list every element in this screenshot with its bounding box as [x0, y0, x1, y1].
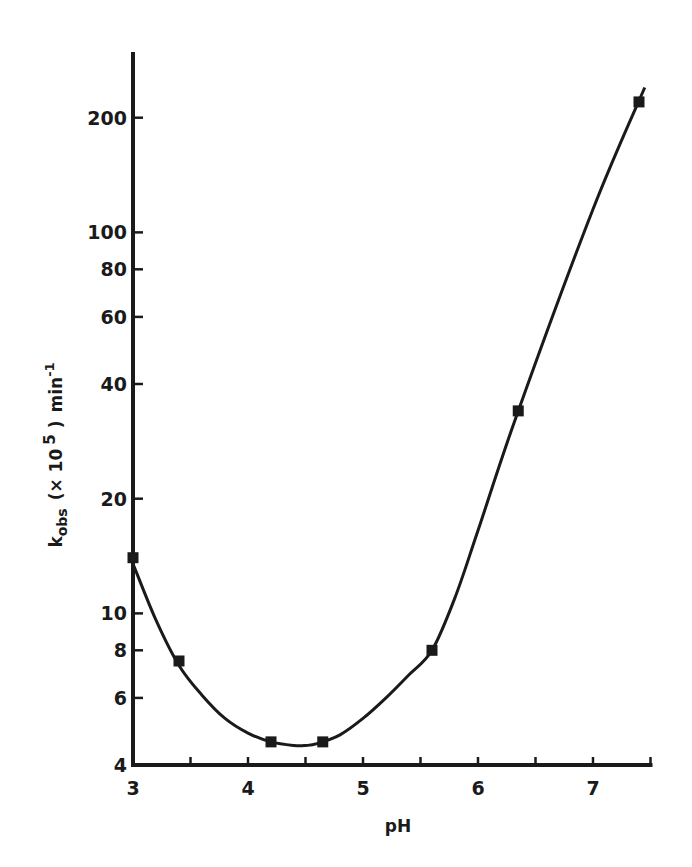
y-tick-label: 6 — [114, 687, 127, 709]
y-tick-label: 8 — [114, 639, 127, 661]
ylabel-close: ) — [46, 421, 66, 429]
y-tick-label: 4 — [114, 754, 127, 776]
data-point — [317, 736, 328, 747]
x-tick-label: 3 — [126, 777, 139, 799]
data-point — [174, 655, 185, 666]
ylabel-sup: 5 — [41, 434, 59, 444]
data-point — [634, 96, 645, 107]
x-axis-title: pH — [385, 816, 411, 836]
ylabel-main: k — [46, 536, 66, 548]
ylabel-sub: obs — [54, 508, 70, 536]
data-point — [427, 645, 438, 656]
y-tick-label: 100 — [87, 221, 127, 243]
x-tick-label: 4 — [241, 777, 254, 799]
y-tick-label: 60 — [101, 306, 127, 328]
data-point — [128, 552, 139, 563]
y-axis-title: kobs(× 105)min-1 — [41, 362, 70, 547]
y-tick-label: 80 — [101, 258, 127, 280]
y-tick-label: 20 — [101, 488, 127, 510]
data-points — [128, 96, 645, 747]
fitted-curve — [133, 88, 645, 746]
x-tick-label: 7 — [586, 777, 599, 799]
chart: 34567 4681020406080100200 pH kobs(× 105)… — [0, 0, 692, 867]
y-tick-label: 10 — [101, 602, 127, 624]
data-point — [266, 736, 277, 747]
svg-text:kobs(× 105)min-1: kobs(× 105)min-1 — [41, 362, 70, 547]
x-tick-label: 6 — [471, 777, 484, 799]
y-tick-label: 40 — [101, 373, 127, 395]
axes — [131, 52, 653, 766]
ylabel-paren: (× 10 — [46, 449, 66, 501]
data-point — [513, 405, 524, 416]
x-tick-label: 5 — [356, 777, 369, 799]
ylabel-unit-sup: -1 — [42, 362, 57, 376]
y-tick-label: 200 — [87, 107, 127, 129]
curve-path — [133, 88, 645, 746]
ylabel-unit: min — [46, 377, 66, 413]
